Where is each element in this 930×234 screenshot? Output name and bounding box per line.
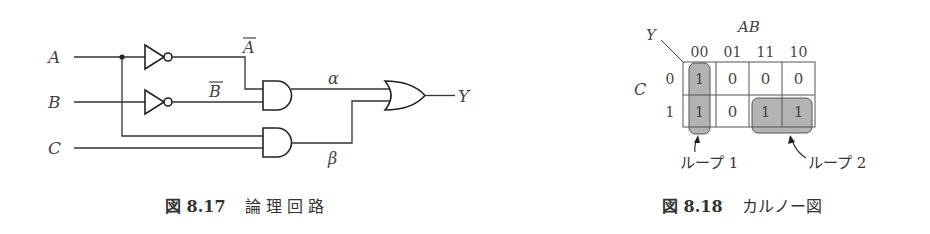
and-gate-2 xyxy=(263,128,292,157)
kmap-cell: 1 xyxy=(695,103,705,121)
or-gate xyxy=(385,81,425,110)
kmap-col-var: AB xyxy=(736,18,760,36)
input-label-a: A xyxy=(46,47,60,67)
kmap-col-header: 01 xyxy=(724,44,742,60)
loop-2-label: ループ 2 xyxy=(808,154,866,172)
kmap-cell: 0 xyxy=(761,70,771,88)
label-b-bar: B xyxy=(208,82,221,101)
kmap-cell: 1 xyxy=(761,103,771,121)
kmap-cell: 1 xyxy=(794,103,804,121)
kmap-cell: 0 xyxy=(728,70,738,88)
loop-1-arrow-icon xyxy=(694,135,700,152)
karnaugh-map: Y AB 00 01 11 10 C 0 1 1 0 0 0 1 xyxy=(634,18,866,216)
kmap-cell: 1 xyxy=(695,70,705,88)
loop-1-label: ループ 1 xyxy=(680,154,738,172)
kmap-row-header: 1 xyxy=(666,104,675,120)
kmap-corner-diagonal xyxy=(661,40,683,62)
caption-817: 図 8.17 論 理 回 路 xyxy=(165,197,324,216)
kmap-col-header: 10 xyxy=(790,44,808,60)
caption-818: 図 8.18 カルノー図 xyxy=(662,197,822,216)
kmap-row-header: 0 xyxy=(666,71,675,87)
and-gate-1 xyxy=(263,81,292,110)
label-alpha: α xyxy=(328,69,339,88)
kmap-col-header: 00 xyxy=(691,44,709,60)
input-label-b: B xyxy=(47,92,61,112)
figure-canvas: A B C A B α xyxy=(0,0,930,234)
label-a-bar: A xyxy=(241,38,255,57)
kmap-cell: 0 xyxy=(728,103,738,121)
kmap-output-label: Y xyxy=(646,26,658,44)
logic-circuit: A B C A B α xyxy=(46,38,471,216)
kmap-cell: 0 xyxy=(794,70,804,88)
not-gate-a xyxy=(145,45,172,69)
wire-beta xyxy=(291,101,390,143)
input-label-c: C xyxy=(48,138,61,158)
wire-a-to-and2 xyxy=(122,57,263,136)
kmap-row-var: C xyxy=(634,80,646,99)
output-label-y: Y xyxy=(458,86,471,106)
kmap-col-header: 11 xyxy=(757,44,775,60)
loop-2-arrow-icon xyxy=(788,135,806,158)
label-beta: β xyxy=(327,149,337,168)
not-gate-b xyxy=(145,90,172,114)
